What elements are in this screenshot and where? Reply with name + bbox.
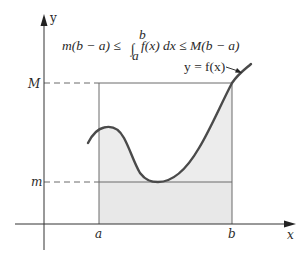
integral-lower-limit: a xyxy=(132,48,139,63)
tick-label-M: M xyxy=(27,77,41,91)
integral-bounds-diagram: y x a b M m y = f(x) m(b − a) ≤ ∫ b a f(… xyxy=(0,0,306,260)
tick-label-b: b xyxy=(228,227,236,241)
curve-label: y = f(x) xyxy=(184,59,225,74)
formula-left: m(b − a) ≤ xyxy=(62,38,121,53)
x-axis-arrow-icon xyxy=(284,221,296,228)
y-axis-arrow-icon xyxy=(41,14,48,26)
integral-inequality-formula: m(b − a) ≤ ∫ b a f(x) dx ≤ M(b − a) xyxy=(62,27,240,63)
x-axis-label: x xyxy=(287,228,294,242)
tick-label-m: m xyxy=(31,175,42,189)
pointer-arrow-icon xyxy=(235,68,242,73)
y-axis-label: y xyxy=(49,11,57,25)
formula-right: f(x) dx ≤ M(b − a) xyxy=(141,38,240,53)
lower-rectangle-area xyxy=(99,182,232,224)
tick-label-a: a xyxy=(95,227,102,241)
